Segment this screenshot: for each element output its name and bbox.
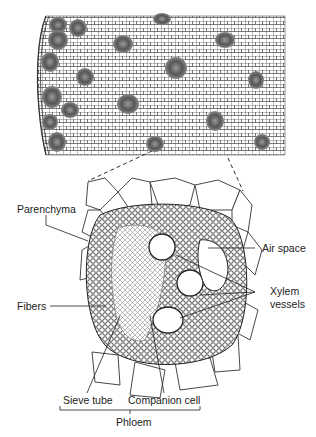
label-fibers: Fibers — [17, 300, 46, 312]
label-phloem: Phloem — [116, 416, 152, 428]
label-parenchyma: Parenchyma — [17, 203, 76, 215]
stem-section — [37, 13, 285, 155]
enlarged-vascular-bundle — [80, 178, 262, 398]
label-companion-cell: Companion cell — [128, 394, 200, 406]
label-xylem: Xylem — [270, 285, 299, 297]
diagram-canvas — [0, 0, 316, 437]
label-sieve-tube: Sieve tube — [63, 394, 113, 406]
label-vessels: vessels — [270, 298, 305, 310]
label-air-space: Air space — [262, 242, 306, 254]
stem-diagram: Parenchyma Air space Xylem vessels Fiber… — [0, 0, 316, 437]
